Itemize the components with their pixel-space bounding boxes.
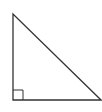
right-angle-marker [13,90,23,100]
triangle-shape [13,14,101,100]
right-triangle-diagram [0,0,102,112]
